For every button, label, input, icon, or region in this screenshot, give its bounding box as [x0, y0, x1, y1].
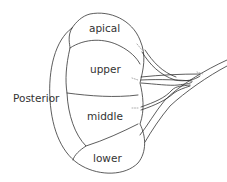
- branch-middle-inner: [141, 86, 190, 110]
- apical-upper-boundary: [70, 40, 140, 64]
- main-vessel-upper-wall: [140, 60, 227, 135]
- branch-upper-2: [141, 80, 192, 81]
- hilum-marker-upper: [132, 78, 138, 80]
- label-lower: lower: [93, 153, 122, 164]
- label-posterior: Posterior: [13, 93, 59, 104]
- branch-upper-1: [141, 74, 200, 77]
- kidney-outer-outline: [50, 13, 145, 173]
- label-upper: upper: [90, 64, 121, 75]
- upper-middle-boundary: [67, 93, 138, 96]
- main-vessel-lower-wall: [145, 66, 227, 142]
- label-apical: apical: [89, 23, 120, 34]
- kidney-segment-diagram: apical upper middle lower Posterior: [0, 0, 227, 182]
- label-middle: middle: [87, 111, 123, 122]
- hilum-marker-apical: [137, 44, 142, 50]
- middle-lower-boundary: [86, 124, 138, 146]
